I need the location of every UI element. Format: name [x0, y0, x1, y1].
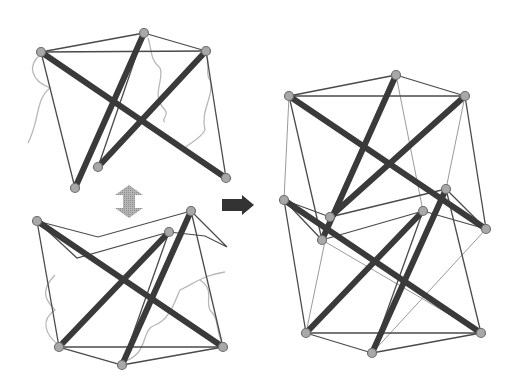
node-K	[118, 361, 127, 370]
stacked-tower	[280, 71, 491, 358]
cable	[37, 221, 59, 347]
cable	[396, 75, 465, 96]
cable	[289, 75, 396, 96]
cable	[41, 33, 144, 52]
strut	[372, 189, 446, 353]
node-B	[140, 29, 149, 38]
bottom-module	[33, 207, 228, 370]
node-H	[187, 207, 196, 216]
node-Q3	[477, 329, 486, 338]
double-arrow-icon	[115, 185, 143, 218]
light-cable	[284, 96, 289, 200]
cable	[59, 347, 122, 365]
node-L	[219, 343, 228, 352]
node-C	[202, 47, 211, 56]
node-M3	[442, 185, 451, 194]
strut	[37, 221, 223, 347]
node-M1	[280, 196, 289, 205]
cable	[122, 347, 223, 365]
node-M4	[419, 207, 428, 216]
node-M6	[318, 236, 327, 245]
diagram-svg	[0, 0, 506, 388]
node-P1	[285, 92, 294, 101]
tensegrity-diagram	[0, 0, 506, 388]
strut	[75, 33, 144, 188]
cable	[144, 33, 206, 51]
right-arrow-icon	[222, 195, 254, 215]
strut	[98, 51, 206, 167]
cable	[41, 51, 206, 52]
node-Q1	[302, 329, 311, 338]
node-P3	[461, 92, 470, 101]
wire-strand	[28, 55, 50, 143]
node-E	[94, 163, 103, 172]
node-J	[55, 343, 64, 352]
cable	[206, 51, 226, 178]
node-M5	[482, 225, 491, 234]
strut	[41, 52, 226, 178]
node-P2	[392, 71, 401, 80]
node-F	[222, 174, 231, 183]
node-M2	[326, 213, 335, 222]
node-A	[37, 48, 46, 57]
top-module	[28, 29, 231, 193]
node-G	[33, 217, 42, 226]
cable	[306, 333, 372, 353]
node-I	[165, 228, 174, 237]
node-Q2	[368, 349, 377, 358]
cable	[372, 333, 481, 353]
node-D	[71, 184, 80, 193]
cable	[465, 96, 486, 229]
